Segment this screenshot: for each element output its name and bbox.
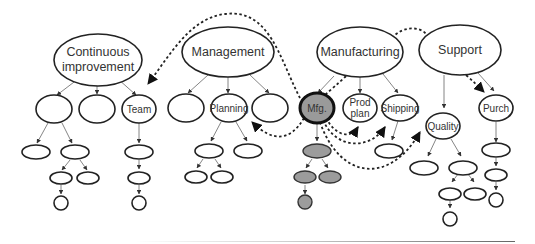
node-label: Support bbox=[438, 43, 482, 57]
node-label: Continuous bbox=[66, 45, 129, 59]
node-mgmt-child-1 bbox=[168, 94, 204, 122]
hierarchy-edges bbox=[37, 73, 496, 208]
node-management: Management bbox=[182, 27, 274, 77]
node-label: Quality bbox=[427, 121, 458, 132]
node-manufacturing: Manufacturing bbox=[317, 27, 403, 77]
mgmt-leaf-nodes bbox=[185, 144, 262, 183]
node-ci-child-1 bbox=[36, 95, 72, 123]
node-label: Manufacturing bbox=[320, 45, 399, 59]
node-label: Shipping bbox=[381, 103, 420, 114]
bottom-rule bbox=[135, 241, 515, 242]
node-quality: Quality bbox=[426, 113, 460, 139]
node-continuous-improvement: Continuous improvement bbox=[54, 34, 142, 86]
ci-leaf-nodes bbox=[22, 145, 153, 210]
mfg-leaf-nodes bbox=[294, 144, 403, 209]
node-team: Team bbox=[122, 95, 156, 123]
org-diagram: Continuous improvement Management Manufa… bbox=[0, 0, 535, 244]
node-label: Prod bbox=[349, 97, 370, 108]
node-purch: Purch bbox=[479, 95, 513, 121]
support-leaf-nodes bbox=[410, 143, 510, 226]
node-label: Management bbox=[192, 45, 265, 59]
node-ci-child-2 bbox=[79, 95, 115, 123]
node-planning: Planning bbox=[210, 94, 249, 122]
node-shipping: Shipping bbox=[381, 95, 420, 121]
node-support: Support bbox=[419, 25, 501, 75]
node-label: improvement bbox=[62, 60, 135, 74]
node-mfg: Mfg. bbox=[300, 93, 334, 123]
node-label: Mfg. bbox=[307, 103, 326, 114]
node-label: plan bbox=[351, 108, 370, 119]
node-mgmt-child-3 bbox=[252, 94, 288, 122]
node-prod-plan: Prod plan bbox=[343, 94, 377, 122]
node-label: Team bbox=[127, 104, 151, 115]
node-label: Planning bbox=[210, 103, 249, 114]
node-label: Purch bbox=[483, 103, 509, 114]
